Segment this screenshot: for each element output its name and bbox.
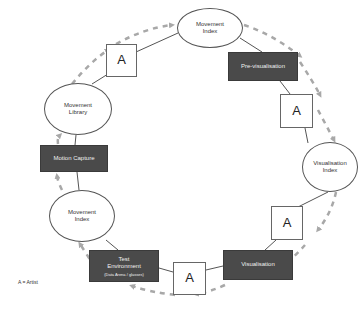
movement-index-left-node: Movement Index — [49, 190, 115, 242]
artist-bottom-node: A — [173, 262, 206, 295]
node-label-line2: Environment — [107, 263, 141, 271]
node-label: Visualisation — [241, 261, 275, 269]
node-label-line2: Library — [69, 109, 87, 117]
node-label: Pre-visualisation — [241, 63, 285, 71]
node-label-line1: Movement — [64, 102, 92, 110]
legend-artist: A = Artist — [18, 279, 38, 285]
node-label-line1: Movement — [196, 21, 224, 29]
artist-label: A — [283, 215, 292, 231]
artist-top-left-node: A — [106, 44, 137, 77]
node-label-line1: Visualisation — [313, 160, 347, 168]
artist-label: A — [117, 52, 126, 68]
pre-visualisation-node: Pre-visualisation — [228, 52, 298, 81]
node-label: Motion Capture — [53, 155, 94, 163]
visualisation-index-node: Visualisation Index — [302, 142, 358, 192]
test-environment-node: Test Environment (Data Arena / glasses) — [89, 250, 159, 282]
node-label-line2: Index — [75, 216, 90, 224]
movement-library-node: Movement Library — [44, 83, 112, 135]
node-label-line1: Test — [118, 256, 129, 264]
artist-upper-right-node: A — [280, 94, 313, 128]
motion-capture-node: Motion Capture — [40, 145, 108, 172]
node-label-line2: Index — [323, 167, 338, 175]
visualisation-node: Visualisation — [223, 250, 293, 280]
node-sublabel: (Data Arena / glasses) — [104, 272, 144, 277]
artist-lower-right-node: A — [271, 206, 303, 240]
node-label-line1: Movement — [68, 209, 96, 217]
artist-label: A — [292, 103, 301, 119]
artist-label: A — [185, 270, 194, 286]
movement-index-top-node: Movement Index — [177, 8, 243, 48]
node-label-line2: Index — [203, 28, 218, 36]
